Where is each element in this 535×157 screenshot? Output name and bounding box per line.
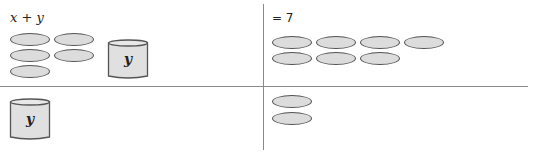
counter [316, 36, 356, 49]
horizontal-divider [0, 86, 528, 87]
counter [272, 52, 312, 65]
counter [54, 33, 94, 46]
counter [54, 49, 94, 62]
cup-icon: y [9, 98, 51, 141]
counter [10, 65, 50, 78]
counter [272, 36, 312, 49]
cup-label: y [9, 111, 51, 127]
counter [360, 52, 400, 65]
counter [272, 112, 312, 125]
expression-right: = 7 [272, 11, 294, 25]
cup-label: y [107, 51, 149, 67]
vertical-divider [263, 4, 264, 150]
counter [10, 33, 50, 46]
counter [360, 36, 400, 49]
counter [272, 95, 312, 108]
counter [316, 52, 356, 65]
expression-left: x + y [10, 10, 44, 25]
counter [404, 36, 444, 49]
cup-icon: y [107, 39, 149, 80]
counter [10, 49, 50, 62]
